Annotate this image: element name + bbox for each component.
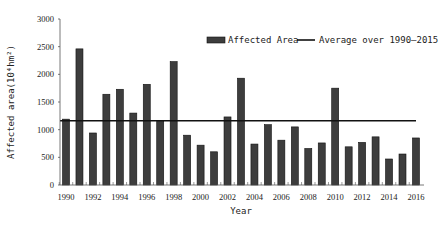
- bar-1990: [63, 119, 70, 185]
- y-tick-label: 1500: [37, 97, 54, 107]
- y-tick-label: 0: [50, 180, 54, 190]
- x-tick-label: 2004: [246, 192, 264, 202]
- x-tick-label: 2016: [407, 192, 424, 202]
- bar-2011: [345, 147, 352, 185]
- x-tick-label: 1994: [111, 192, 129, 202]
- bar-1999: [184, 135, 191, 185]
- x-tick-label: 2006: [273, 192, 290, 202]
- bar-2000: [197, 145, 204, 185]
- bar-2010: [332, 88, 339, 185]
- bar-2003: [237, 78, 244, 185]
- bar-1991: [76, 49, 83, 185]
- bar-2008: [305, 148, 312, 185]
- bar-1995: [130, 113, 137, 185]
- legend: Affected Area Average over 1990—2015: [207, 35, 438, 45]
- bar-2002: [224, 117, 231, 185]
- y-axis-title: Affected area(10⁴hm²): [6, 45, 16, 159]
- y-tick-label: 500: [41, 152, 54, 162]
- x-tick-label: 2012: [354, 192, 371, 202]
- y-tick-label: 2000: [37, 69, 54, 79]
- bar-2006: [278, 140, 285, 185]
- legend-bar-swatch: [207, 37, 225, 43]
- bar-1994: [116, 89, 123, 185]
- bar-1998: [170, 62, 177, 185]
- bar-2013: [372, 137, 379, 185]
- bar-2016: [412, 138, 419, 185]
- x-axis-title: Year: [230, 206, 252, 216]
- x-tick-label: 1998: [165, 192, 182, 202]
- bar-1997: [157, 121, 164, 185]
- x-tick-label: 2008: [300, 192, 317, 202]
- bar-2005: [264, 125, 271, 185]
- bar-1992: [89, 133, 96, 185]
- y-tick-label: 3000: [37, 14, 54, 24]
- x-tick-label: 1992: [84, 192, 101, 202]
- bar-2012: [359, 142, 366, 185]
- bar-2001: [211, 152, 218, 185]
- x-tick-label: 2000: [192, 192, 209, 202]
- x-tick-label: 1990: [58, 192, 75, 202]
- y-tick-label: 2500: [37, 42, 54, 52]
- bar-2007: [291, 127, 298, 185]
- bar-2004: [251, 144, 258, 185]
- legend-bar-label: Affected Area: [228, 35, 298, 45]
- x-tick-label: 1996: [138, 192, 155, 202]
- bar-2009: [318, 143, 325, 185]
- bar-1993: [103, 94, 110, 185]
- y-axis-ticks: 050010001500200025003000: [37, 14, 60, 190]
- bars: [63, 49, 420, 185]
- bar-2014: [386, 159, 393, 185]
- x-tick-label: 2014: [381, 192, 399, 202]
- bar-chart: 050010001500200025003000 199019921994199…: [0, 0, 446, 225]
- x-tick-label: 2010: [327, 192, 344, 202]
- x-tick-label: 2002: [219, 192, 236, 202]
- bar-2015: [399, 154, 406, 185]
- y-tick-label: 1000: [37, 125, 54, 135]
- bar-1996: [143, 84, 150, 185]
- legend-line-label: Average over 1990—2015: [319, 35, 438, 45]
